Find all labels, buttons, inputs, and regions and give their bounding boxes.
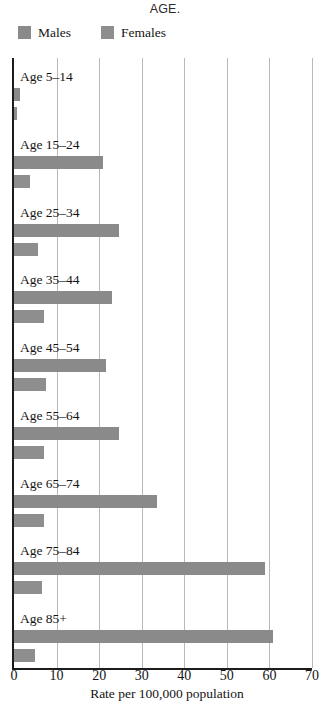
category-label: Age 65–74 bbox=[20, 476, 80, 492]
legend-label-males: Males bbox=[38, 25, 71, 41]
bar-group: Age 25–34 bbox=[14, 194, 312, 262]
bar-group: Age 85+ bbox=[14, 600, 312, 668]
x-tick-60: 60 bbox=[262, 668, 276, 684]
category-label: Age 25–34 bbox=[20, 205, 80, 221]
bar-females bbox=[14, 581, 42, 594]
bar-males bbox=[14, 156, 103, 169]
bar-males bbox=[14, 88, 20, 101]
bar-females bbox=[14, 446, 44, 459]
bar-males bbox=[14, 630, 273, 643]
legend-item-females: Females bbox=[101, 25, 166, 41]
bar-males bbox=[14, 427, 119, 440]
bar-males bbox=[14, 359, 106, 372]
bar-group: Age 45–54 bbox=[14, 329, 312, 397]
legend-item-males: Males bbox=[18, 25, 71, 41]
x-axis-tick-labels: 010203040506070 bbox=[0, 668, 324, 688]
bar-females bbox=[14, 378, 46, 391]
x-tick-20: 20 bbox=[92, 668, 106, 684]
x-tick-10: 10 bbox=[50, 668, 64, 684]
x-tick-70: 70 bbox=[305, 668, 319, 684]
category-label: Age 5–14 bbox=[20, 69, 73, 85]
category-label: Age 45–54 bbox=[20, 340, 80, 356]
bar-group: Age 5–14 bbox=[14, 58, 312, 126]
bar-males bbox=[14, 495, 157, 508]
bar-group: Age 35–44 bbox=[14, 261, 312, 329]
bar-females bbox=[14, 310, 44, 323]
category-label: Age 55–64 bbox=[20, 408, 80, 424]
bar-males bbox=[14, 291, 112, 304]
x-tick-40: 40 bbox=[177, 668, 191, 684]
x-tick-30: 30 bbox=[135, 668, 149, 684]
bar-males bbox=[14, 562, 265, 575]
chart-caption: AGE. bbox=[0, 0, 324, 19]
legend-label-females: Females bbox=[121, 25, 166, 41]
bar-group: Age 75–84 bbox=[14, 532, 312, 600]
bar-females bbox=[14, 514, 44, 527]
x-tick-0: 0 bbox=[11, 668, 18, 684]
bar-group: Age 55–64 bbox=[14, 397, 312, 465]
chart-plot-area: Age 5–14Age 15–24Age 25–34Age 35–44Age 4… bbox=[14, 58, 312, 668]
legend-swatch-females-icon bbox=[101, 26, 114, 39]
category-label: Age 75–84 bbox=[20, 543, 80, 559]
bar-females bbox=[14, 175, 30, 188]
bar-group: Age 65–74 bbox=[14, 465, 312, 533]
bar-males bbox=[14, 224, 119, 237]
category-label: Age 15–24 bbox=[20, 137, 80, 153]
category-label: Age 35–44 bbox=[20, 272, 80, 288]
bar-females bbox=[14, 107, 17, 120]
legend-swatch-males-icon bbox=[18, 26, 31, 39]
bar-group: Age 15–24 bbox=[14, 126, 312, 194]
x-axis-title: Rate per 100,000 population bbox=[0, 686, 324, 702]
gridline-70 bbox=[312, 58, 313, 668]
bar-females bbox=[14, 649, 35, 662]
x-tick-50: 50 bbox=[220, 668, 234, 684]
chart-legend: Males Females bbox=[18, 24, 166, 41]
bar-females bbox=[14, 243, 38, 256]
category-label: Age 85+ bbox=[20, 611, 67, 627]
